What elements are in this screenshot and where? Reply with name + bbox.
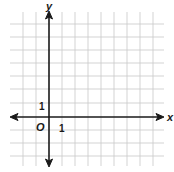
x-axis bbox=[10, 114, 164, 121]
x-tick-label: 1 bbox=[59, 123, 65, 134]
grid bbox=[10, 12, 164, 166]
y-axis-label: y bbox=[45, 0, 53, 12]
coordinate-plane: x y O 1 1 bbox=[0, 0, 174, 172]
y-tick-label: 1 bbox=[39, 101, 45, 112]
origin-label: O bbox=[36, 121, 45, 133]
x-axis-label: x bbox=[166, 111, 174, 123]
